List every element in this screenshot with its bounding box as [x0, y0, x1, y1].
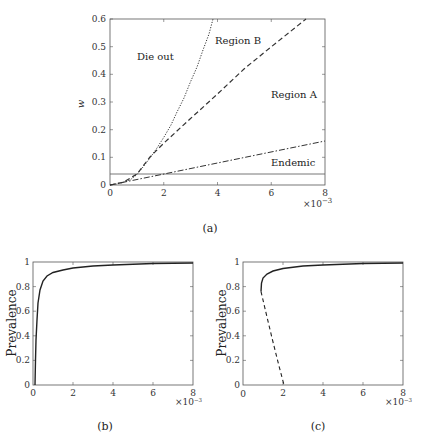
caption-a: (a) [202, 222, 217, 235]
panel-b: 0 0.2 0.4 0.6 0.8 1 0 2 4 6 8 ×10−3 Prev… [5, 257, 203, 433]
ytick-a-3: 0.3 [92, 97, 107, 107]
x-multiplier-c: ×10−3 [385, 397, 413, 407]
label-region-b: Region B [215, 35, 261, 46]
xtick-b-1: 2 [70, 388, 76, 398]
xtick-b-3: 6 [150, 388, 156, 398]
y-axis-label-c: Prevalence [215, 289, 229, 356]
xtick-b-2: 4 [110, 388, 116, 398]
ytick-a-0: 0 [100, 180, 106, 190]
plot-frame-b [33, 262, 193, 385]
stable-branch-c [261, 263, 403, 292]
y-axis-label-b: Prevalence [5, 289, 19, 356]
y-axis-label-a: w [75, 99, 86, 108]
ytick-a-1: 0.1 [92, 152, 106, 162]
ytick-a-2: 0.2 [92, 125, 106, 135]
xtick-a-1: 2 [161, 188, 167, 198]
panel-a: 0 0.1 0.2 0.3 0.4 0.5 0.6 0 2 4 6 8 ×10−… [75, 14, 332, 235]
xtick-a-0: 0 [107, 188, 113, 198]
panel-c: 0 0.2 0.4 0.6 0.8 1 0 2 4 6 8 ×10−3 Prev… [215, 257, 413, 433]
ticks-b [33, 262, 193, 385]
ytick-a-4: 0.4 [92, 69, 107, 79]
xtick-c-1: 2 [280, 388, 286, 398]
xtick-c-0: 0 [240, 389, 246, 399]
prevalence-curve-b [35, 263, 193, 385]
xtick-a-3: 6 [268, 188, 274, 198]
dotted-boundary [110, 19, 213, 185]
ytick-c-5: 1 [234, 257, 240, 267]
figure: 0 0.1 0.2 0.3 0.4 0.5 0.6 0 2 4 6 8 ×10−… [0, 0, 421, 438]
label-region-a: Region A [271, 89, 318, 100]
plot-frame-c [243, 262, 403, 385]
ticks-c [243, 262, 403, 385]
xtick-c-2: 4 [320, 388, 326, 398]
ytick-b-5: 1 [24, 257, 30, 267]
xtick-c-3: 6 [360, 388, 366, 398]
ytick-a-6: 0.6 [92, 14, 107, 24]
caption-b: (b) [97, 420, 113, 433]
xtick-b-0: 0 [30, 388, 36, 398]
x-multiplier-b: ×10−3 [175, 397, 203, 407]
x-multiplier-a: ×10−3 [303, 197, 332, 209]
caption-c: (c) [311, 420, 326, 433]
ytick-a-5: 0.5 [92, 42, 107, 52]
label-die-out: Die out [137, 51, 174, 62]
unstable-branch-c [261, 292, 284, 386]
label-endemic: Endemic [271, 157, 316, 168]
xtick-a-2: 4 [215, 188, 221, 198]
